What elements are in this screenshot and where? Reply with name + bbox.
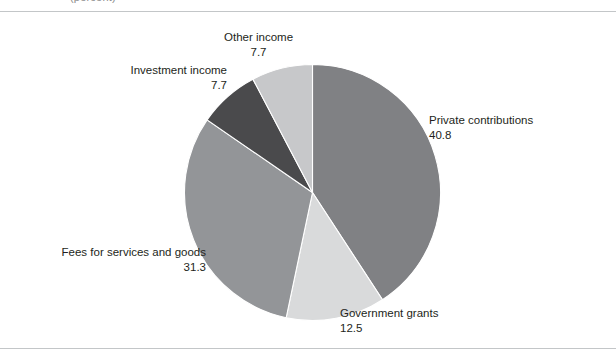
slice-label-government-grants: Government grants 12.5: [340, 306, 438, 336]
slice-label-investment-income-value: 7.7: [125, 78, 227, 93]
slice-label-other-income: Other income 7.7: [224, 30, 293, 60]
slice-label-fees-for-services-and-goods-value: 31.3: [56, 260, 206, 275]
slice-label-government-grants-value: 12.5: [340, 321, 438, 336]
slice-label-fees-for-services-and-goods: Fees for services and goods 31.3: [56, 245, 206, 275]
slice-label-government-grants-title: Government grants: [340, 306, 438, 321]
slice-label-other-income-title: Other income: [224, 30, 293, 45]
slice-label-investment-income: Investment income 7.7: [125, 63, 227, 93]
pie-chart-figure: (percent) Other income 7.7 Investment in…: [0, 0, 616, 362]
slice-label-private-contributions-title: Private contributions: [429, 113, 533, 128]
slice-label-investment-income-title: Investment income: [125, 63, 227, 78]
pie-svg: [184, 64, 441, 321]
slice-label-other-income-value: 7.7: [224, 45, 293, 60]
slice-label-fees-for-services-and-goods-title: Fees for services and goods: [56, 245, 206, 260]
pie-graphic: [184, 64, 441, 321]
slice-label-private-contributions-value: 40.8: [429, 128, 533, 143]
slice-label-private-contributions: Private contributions 40.8: [429, 113, 533, 143]
figure-top-rule: [0, 11, 616, 12]
figure-bottom-rule: [0, 348, 616, 349]
figure-units-caption: (percent): [70, 0, 116, 3]
pie-slices: [185, 65, 441, 321]
